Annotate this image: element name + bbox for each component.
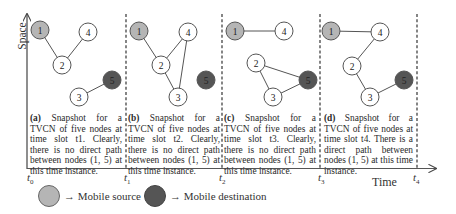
caption-tag: (b) (128, 113, 139, 123)
svg-text:5: 5 (402, 76, 407, 86)
svg-text:1: 1 (137, 27, 142, 37)
caption-text: Snapshot for a TVCN of five nodes at tim… (224, 113, 316, 176)
node-4-normal: 4 (275, 22, 293, 40)
node-4-normal: 4 (79, 23, 97, 41)
node-5-destination: 5 (197, 71, 215, 89)
snapshot-a: 14253 (31, 21, 121, 106)
svg-text:4: 4 (186, 28, 191, 38)
node-2-normal: 2 (343, 57, 361, 75)
source-node-swatch (38, 185, 60, 207)
tick-t4: t4 (413, 171, 420, 186)
svg-text:2: 2 (254, 59, 259, 69)
caption-tag: (a) (30, 113, 41, 123)
node-1-source: 1 (322, 22, 340, 40)
caption-text: Snapshot for a TVCN of five nodes at tim… (128, 113, 220, 176)
node-1-source: 1 (226, 22, 244, 40)
node-1-source: 1 (130, 22, 148, 40)
legend-destination-label: → Mobile destination (170, 190, 267, 202)
tick-t3: t3 (318, 171, 325, 186)
node-5-destination: 5 (103, 71, 121, 89)
caption-tag: (d) (324, 113, 335, 123)
svg-text:2: 2 (60, 61, 65, 71)
legend-destination: → Mobile destination (144, 186, 267, 206)
svg-text:3: 3 (368, 93, 373, 103)
caption-text: Snapshot for a TVCN of five nodes at tim… (324, 113, 413, 176)
node-3-normal: 3 (70, 88, 88, 106)
node-3-normal: 3 (264, 88, 282, 106)
node-5-destination: 5 (395, 71, 413, 89)
svg-text:3: 3 (77, 93, 82, 103)
snapshot-b: 14253 (130, 22, 215, 106)
tick-t0: t0 (27, 171, 34, 186)
svg-text:1: 1 (233, 27, 238, 37)
node-1-source: 1 (31, 21, 49, 39)
node-4-normal: 4 (371, 23, 389, 41)
legend-source-label: → Mobile source (64, 190, 141, 202)
svg-text:1: 1 (38, 26, 43, 36)
svg-text:2: 2 (350, 62, 355, 72)
destination-node-swatch (144, 185, 166, 207)
space-axis-label: Space (16, 16, 28, 56)
svg-text:4: 4 (378, 28, 383, 38)
time-axis-label: Time (372, 175, 397, 190)
node-4-normal: 4 (179, 23, 197, 41)
tick-t2: t2 (219, 171, 226, 186)
snapshot-c: 14253 (226, 22, 317, 106)
node-2-normal: 2 (53, 56, 71, 74)
svg-text:3: 3 (271, 93, 276, 103)
svg-text:4: 4 (86, 28, 91, 38)
svg-text:2: 2 (159, 61, 164, 71)
caption-tag: (c) (224, 113, 234, 123)
svg-text:3: 3 (176, 93, 181, 103)
node-2-normal: 2 (247, 54, 265, 72)
svg-text:5: 5 (110, 76, 115, 86)
node-5-destination: 5 (299, 71, 317, 89)
tick-t1: t1 (124, 171, 131, 186)
caption-text: Snapshot for a TVCN of five nodes at tim… (30, 113, 122, 176)
node-3-normal: 3 (169, 88, 187, 106)
caption-d: (d) Snapshot for a TVCN of five nodes at… (324, 113, 413, 177)
snapshot-d: 14253 (322, 22, 413, 106)
caption-c: (c) Snapshot for a TVCN of five nodes at… (224, 113, 316, 177)
node-2-normal: 2 (152, 56, 170, 74)
caption-a: (a) Snapshot for a TVCN of five nodes at… (30, 113, 122, 177)
svg-text:1: 1 (329, 27, 334, 37)
svg-text:5: 5 (306, 76, 311, 86)
svg-text:4: 4 (282, 27, 287, 37)
svg-text:5: 5 (204, 76, 209, 86)
legend-source: → Mobile source (38, 186, 141, 206)
caption-b: (b) Snapshot for a TVCN of five nodes at… (128, 113, 220, 177)
node-3-normal: 3 (361, 88, 379, 106)
